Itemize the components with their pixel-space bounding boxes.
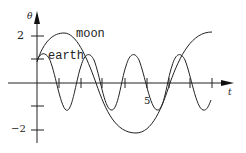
y-tick-label-2: 2 [17, 30, 24, 41]
earth-curve-label: earth [48, 50, 84, 62]
y-tick-label-neg2: −2 [11, 124, 26, 134]
x-tick-label-5: 5 [144, 96, 150, 106]
x-axis-arrow-icon [221, 80, 234, 86]
pendulum-plot [0, 0, 246, 153]
y-axis-arrow-icon [34, 11, 40, 24]
moon-curve-label: moon [76, 28, 105, 40]
y-axis-label: θ [27, 12, 32, 21]
x-axis-label: t [228, 88, 232, 97]
